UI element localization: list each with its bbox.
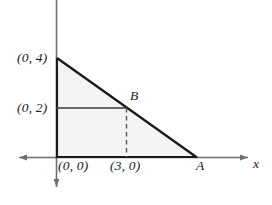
label-x-three: (3, 0) (110, 158, 140, 174)
coordinate-geometry-figure: (0, 4) (0, 2) (0, 0) (3, 0) A B x (0, 0, 272, 205)
label-point-b: B (130, 88, 138, 104)
label-x-axis: x (253, 156, 259, 172)
label-origin: (0, 0) (58, 158, 88, 174)
label-y-mid: (0, 2) (17, 100, 47, 116)
label-point-a: A (196, 158, 204, 174)
label-y-intercept: (0, 4) (17, 50, 47, 66)
